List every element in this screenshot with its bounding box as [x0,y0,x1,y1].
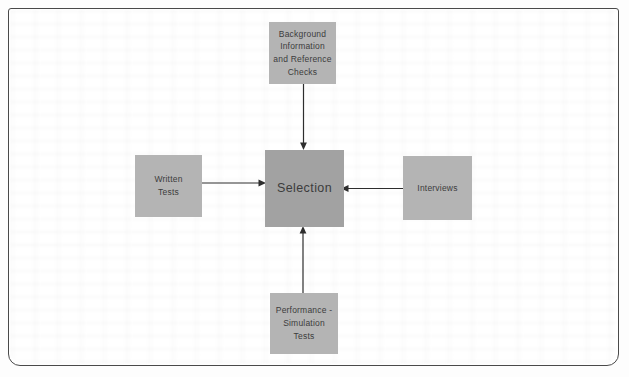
node-selection: Selection [265,150,344,227]
node-interviews: Interviews [403,156,472,220]
node-written-tests: Written Tests [135,155,202,217]
arrow-performance-to-selection [300,226,307,295]
page: Background Information and Reference Che… [0,0,629,377]
node-performance-simulation-tests: Performance - Simulation Tests [270,293,338,354]
arrow-interviews-to-selection [341,185,406,192]
arrow-written-tests-to-selection [200,180,266,187]
arrow-background-to-selection [300,82,307,150]
node-background-reference-checks: Background Information and Reference Che… [269,22,336,84]
